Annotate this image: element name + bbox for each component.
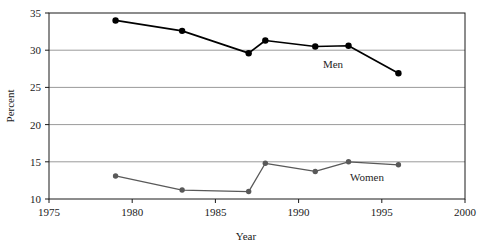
x-tick-label: 1980 — [121, 206, 144, 218]
data-point — [262, 37, 268, 43]
data-point — [312, 43, 318, 49]
data-point — [179, 28, 185, 34]
x-axis-title: Year — [236, 230, 257, 242]
y-tick-label: 30 — [30, 44, 42, 56]
y-tick-label: 15 — [30, 156, 42, 168]
chart-background — [0, 0, 481, 248]
y-tick-label: 35 — [30, 7, 42, 19]
data-point — [113, 173, 118, 178]
series-label-men: Men — [323, 58, 344, 70]
y-tick-label: 10 — [30, 193, 42, 205]
x-tick-label: 1975 — [38, 206, 61, 218]
x-tick-label: 2000 — [454, 206, 477, 218]
data-point — [396, 162, 401, 167]
y-tick-label: 25 — [30, 81, 42, 93]
data-point — [179, 187, 184, 192]
series-label-women: Women — [350, 171, 384, 183]
data-point — [245, 50, 251, 56]
data-point — [346, 159, 351, 164]
x-tick-label: 1985 — [204, 206, 227, 218]
y-axis-title: Percent — [4, 90, 16, 123]
data-point — [345, 43, 351, 49]
x-tick-label: 1990 — [288, 206, 311, 218]
data-point — [263, 161, 268, 166]
data-point — [395, 70, 401, 76]
data-point — [313, 169, 318, 174]
data-point — [112, 17, 118, 23]
y-tick-label: 20 — [30, 119, 42, 131]
x-tick-label: 1995 — [371, 206, 394, 218]
chart-container: 101520253035 197519801985199019952000 Me… — [0, 0, 481, 248]
data-point — [246, 189, 251, 194]
line-chart: 101520253035 197519801985199019952000 Me… — [0, 0, 481, 248]
